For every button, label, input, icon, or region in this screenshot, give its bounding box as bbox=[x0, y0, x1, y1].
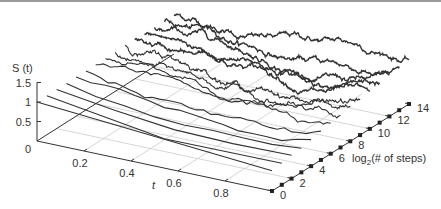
endpoint-marker bbox=[407, 102, 411, 106]
endpoint-marker bbox=[299, 170, 303, 174]
endpoint-marker bbox=[319, 158, 323, 162]
endpoint-marker bbox=[270, 189, 274, 193]
svg-text:0.8: 0.8 bbox=[213, 187, 228, 199]
svg-text:0.6: 0.6 bbox=[166, 177, 181, 189]
axes bbox=[37, 54, 409, 191]
svg-text:4: 4 bbox=[319, 164, 325, 176]
svg-text:1.5: 1.5 bbox=[16, 77, 31, 89]
waterfall-chart: 0.511.500.20.40.60.802468101214 S (t) t … bbox=[0, 0, 441, 209]
series-curve-13 bbox=[164, 19, 399, 76]
endpoint-marker bbox=[387, 114, 391, 118]
endpoint-marker bbox=[339, 146, 343, 150]
series-curve-1 bbox=[47, 96, 282, 164]
endpoint-marker bbox=[378, 121, 382, 125]
endpoint-marker bbox=[358, 133, 362, 137]
svg-text:12: 12 bbox=[397, 114, 409, 126]
x-axis-label: t bbox=[152, 179, 156, 191]
svg-text:10: 10 bbox=[378, 127, 390, 139]
svg-text:14: 14 bbox=[417, 102, 429, 114]
tick-labels: 0.511.500.20.40.60.802468101214 bbox=[16, 77, 430, 202]
endpoint-marker bbox=[309, 164, 313, 168]
endpoint-marker bbox=[329, 152, 333, 156]
y-axis-label: log2(# of steps) bbox=[352, 152, 426, 167]
svg-text:0.5: 0.5 bbox=[16, 116, 31, 128]
svg-text:1: 1 bbox=[25, 96, 31, 108]
endpoint-marker bbox=[280, 183, 284, 187]
svg-text:0: 0 bbox=[280, 189, 286, 201]
svg-text:8: 8 bbox=[358, 139, 364, 151]
endpoint-marker bbox=[290, 177, 294, 181]
endpoint-marker bbox=[348, 139, 352, 143]
svg-text:0.2: 0.2 bbox=[72, 157, 87, 169]
endpoint-marker bbox=[397, 108, 401, 112]
svg-text:6: 6 bbox=[339, 152, 345, 164]
series-curves bbox=[37, 14, 411, 193]
svg-text:0.4: 0.4 bbox=[119, 167, 134, 179]
svg-text:0: 0 bbox=[25, 143, 31, 155]
svg-text:2: 2 bbox=[300, 177, 306, 189]
z-axis-label: S (t) bbox=[12, 62, 33, 74]
endpoint-marker bbox=[368, 127, 372, 131]
